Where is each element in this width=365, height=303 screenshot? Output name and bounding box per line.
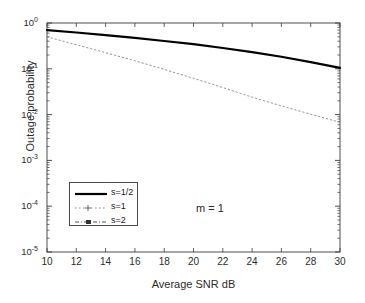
legend-label-s-half: s=1/2 [111, 187, 133, 197]
x-tick-label: 14 [94, 256, 118, 267]
legend-line-sample-solid [73, 186, 109, 198]
y-tick-label: 10-5 [10, 246, 38, 257]
x-tick-label: 20 [182, 256, 206, 267]
x-tick-label: 18 [152, 256, 176, 267]
legend-line-sample-dashdot [73, 214, 109, 226]
x-tick-label: 24 [240, 256, 264, 267]
data-series-group [47, 30, 340, 122]
y-tick-label: 10-1 [10, 63, 38, 74]
x-tick-label: 26 [269, 256, 293, 267]
y-tick-label: 10-3 [10, 154, 38, 165]
x-tick-label: 30 [328, 256, 352, 267]
x-tick-label: 10 [35, 256, 59, 267]
y-tick-label: 10-2 [10, 109, 38, 120]
x-tick-label: 22 [211, 256, 235, 267]
annotation-m-value: m = 1 [196, 202, 224, 214]
legend-item-s-one: s=1 [70, 199, 137, 213]
legend-item-s-half: s=1/2 [70, 185, 137, 199]
x-tick-label: 28 [299, 256, 323, 267]
x-tick-label: 16 [123, 256, 147, 267]
legend-item-s-two: s=2 [70, 213, 137, 227]
y-tick-label: 100 [10, 17, 38, 28]
figure-canvas: Outage probability Average SNR dB 101214… [0, 0, 365, 303]
legend-label-s-two: s=2 [111, 215, 126, 225]
legend-label-s-one: s=1 [111, 201, 126, 211]
legend: s=1/2 s=1 s=2 [69, 182, 138, 226]
y-tick-label: 10-4 [10, 200, 38, 211]
x-tick-label: 12 [64, 256, 88, 267]
legend-line-sample-dotted [73, 200, 109, 212]
